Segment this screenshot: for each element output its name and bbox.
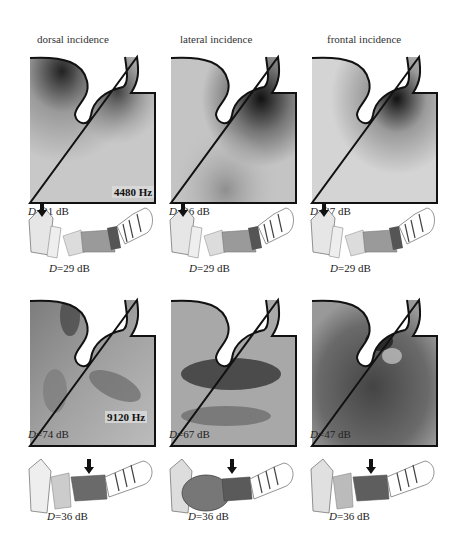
vocal-tract-model-frontal-9120 xyxy=(307,455,437,517)
d-value-frontal-9120: D=47 dB xyxy=(310,428,351,440)
column-header-dorsal: dorsal incidence xyxy=(37,33,109,45)
column-header-lateral: lateral incidence xyxy=(180,33,252,45)
frequency-label-9120: 9120 Hz xyxy=(105,411,147,423)
vocal-tract-model-dorsal-9120 xyxy=(25,455,155,517)
pressure-map-lateral-9120 xyxy=(166,296,298,448)
d-value-tract-lateral-9120: D=36 dB xyxy=(188,510,229,522)
frequency-label-4480: 4480 Hz xyxy=(112,186,154,198)
d-value-tract-lateral-4480: D=29 dB xyxy=(189,262,230,274)
d-value-tract-dorsal-4480: D=29 dB xyxy=(49,262,90,274)
pressure-map-lateral-4480 xyxy=(166,53,298,205)
pressure-map-frontal-4480 xyxy=(307,53,439,205)
d-value-dorsal-9120: D=74 dB xyxy=(28,428,69,440)
vocal-tract-model-frontal-4480 xyxy=(307,200,437,262)
d-value-tract-frontal-4480: D=29 dB xyxy=(330,262,371,274)
column-header-frontal: frontal incidence xyxy=(327,33,401,45)
vocal-tract-model-lateral-9120 xyxy=(166,455,296,517)
d-value-tract-frontal-9120: D=36 dB xyxy=(329,510,370,522)
d-value-tract-dorsal-9120: D=36 dB xyxy=(47,510,88,522)
pressure-map-dorsal-9120 xyxy=(25,296,157,448)
pressure-map-dorsal-4480 xyxy=(25,53,157,205)
d-value-lateral-9120: D=67 dB xyxy=(169,428,210,440)
vocal-tract-model-lateral-4480 xyxy=(166,200,296,262)
pressure-map-frontal-9120 xyxy=(307,296,439,448)
vocal-tract-model-dorsal-4480 xyxy=(25,200,155,262)
